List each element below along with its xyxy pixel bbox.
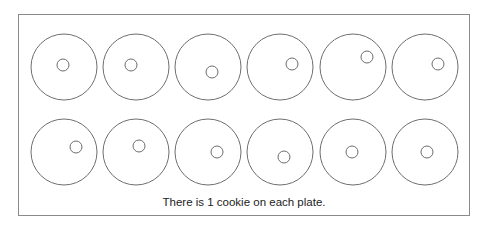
plate-circle xyxy=(31,119,97,185)
cookie-circle xyxy=(421,146,433,158)
plate xyxy=(247,34,313,100)
plate xyxy=(103,34,169,100)
cookie-circle xyxy=(361,51,373,63)
plate xyxy=(247,119,313,185)
plate xyxy=(31,119,97,185)
plate xyxy=(320,119,386,185)
cookie-circle xyxy=(211,146,223,158)
cookie-circle xyxy=(133,140,145,152)
plate xyxy=(31,34,97,100)
cookie-circle xyxy=(125,59,137,71)
plate-circle xyxy=(320,119,386,185)
plate xyxy=(175,34,241,100)
cookie-circle xyxy=(278,151,290,163)
plate-circle xyxy=(175,119,241,185)
cookie-circle xyxy=(70,141,82,153)
cookie-circle xyxy=(206,66,218,78)
plate xyxy=(392,119,458,185)
cookie-circle xyxy=(286,58,298,70)
cookie-circle xyxy=(57,59,69,71)
plate-circle xyxy=(31,34,97,100)
cookie-circle xyxy=(432,58,444,70)
plate xyxy=(392,34,458,100)
plate-circle xyxy=(103,34,169,100)
plate-circle xyxy=(392,34,458,100)
plate-circle xyxy=(247,34,313,100)
plate-circle xyxy=(320,34,386,100)
plate xyxy=(320,34,386,100)
plate xyxy=(175,119,241,185)
plate xyxy=(103,119,169,185)
plate-circle xyxy=(392,119,458,185)
caption-text: There is 1 cookie on each plate. xyxy=(0,196,488,208)
plate-circle xyxy=(103,119,169,185)
cookie-circle xyxy=(346,146,358,158)
